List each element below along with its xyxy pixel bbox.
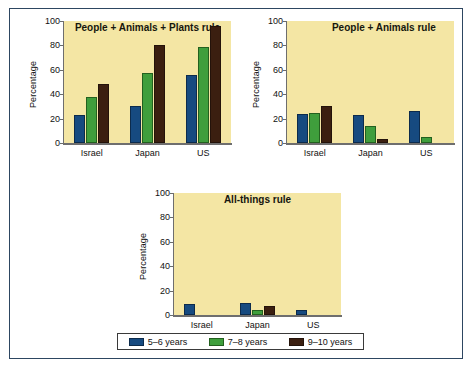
y-axis-tick-mark [283, 45, 286, 46]
x-axis-tick-label: Japan [358, 148, 383, 158]
legend-label-7-8-years: 7–8 years [228, 337, 268, 347]
bar [297, 114, 308, 143]
chart-title: All-things rule [224, 194, 291, 205]
y-axis-tick-label: 40 [273, 89, 283, 99]
x-axis-tick-label: US [420, 148, 433, 158]
y-axis-tick-mark [60, 21, 63, 22]
y-axis-tick-label: 80 [50, 40, 60, 50]
legend-entry: 9–10 years [289, 337, 353, 347]
bar [184, 304, 195, 315]
bar [154, 45, 165, 143]
figure-canvas: 020406080100PercentagePeople + Animals +… [0, 0, 473, 369]
bar [198, 47, 209, 143]
y-axis-tick-label: 60 [50, 65, 60, 75]
x-axis-tick-label: Israel [304, 148, 326, 158]
bar [98, 84, 109, 143]
bar [296, 310, 307, 315]
bar [130, 106, 141, 143]
y-axis-tick-label: 40 [160, 261, 170, 271]
y-axis-tick-mark [283, 143, 286, 144]
y-axis-tick-label: 40 [50, 89, 60, 99]
bar [309, 113, 320, 144]
y-axis-tick-mark [170, 266, 173, 267]
y-axis-tick-label: 60 [273, 65, 283, 75]
bar [377, 139, 388, 143]
bar [421, 137, 432, 143]
y-axis-tick-label: 20 [50, 114, 60, 124]
x-axis-tick-label: Japan [245, 320, 270, 330]
legend-label-5-6-years: 5–6 years [148, 337, 188, 347]
y-axis-tick-mark [283, 21, 286, 22]
y-axis-tick-mark [283, 119, 286, 120]
y-axis-tick-mark [170, 242, 173, 243]
plot-area [174, 193, 341, 315]
y-axis-title: Percentage [138, 233, 148, 280]
legend-entry: 7–8 years [209, 337, 268, 347]
x-axis-tick-label: US [307, 320, 320, 330]
chart-panel-people-animals-plants: 020406080100PercentagePeople + Animals +… [20, 18, 237, 165]
legend-entry: 5–6 years [129, 337, 188, 347]
bar [86, 97, 97, 143]
y-axis-tick-mark [283, 70, 286, 71]
bar [142, 73, 153, 143]
chart-panel-all-things: 020406080100PercentageAll-things ruleIsr… [130, 190, 347, 337]
y-axis-tick-label: 80 [160, 212, 170, 222]
x-axis-tick-label: Israel [81, 148, 103, 158]
y-axis-title: Percentage [251, 61, 261, 108]
y-axis-tick-mark [283, 94, 286, 95]
y-axis-tick-label: 100 [155, 188, 170, 198]
y-axis-tick-label: 60 [160, 237, 170, 247]
legend-swatch-5-6-years [129, 338, 144, 346]
chart-panel-people-animals: 020406080100PercentagePeople + Animals r… [243, 18, 460, 165]
y-axis-tick-mark [170, 217, 173, 218]
x-axis-line [63, 143, 232, 145]
x-axis-line [173, 315, 342, 317]
y-axis-title: Percentage [28, 61, 38, 108]
y-axis-tick-mark [170, 291, 173, 292]
x-axis-line [286, 143, 455, 145]
y-axis-tick-label: 100 [45, 16, 60, 26]
y-axis-tick-mark [60, 45, 63, 46]
bar [353, 115, 364, 143]
y-axis-tick-mark [60, 70, 63, 71]
y-axis-line [63, 21, 65, 145]
y-axis-tick-mark [170, 315, 173, 316]
bar [321, 106, 332, 143]
x-axis-tick-label: US [197, 148, 210, 158]
x-axis-tick-label: Japan [135, 148, 160, 158]
bar [252, 310, 263, 315]
bar [264, 306, 275, 315]
y-axis-tick-mark [60, 119, 63, 120]
y-axis-line [286, 21, 288, 145]
bar [240, 303, 251, 315]
chart-title: People + Animals + Plants rule [75, 22, 220, 33]
chart-legend: 5–6 years 7–8 years 9–10 years [117, 333, 364, 350]
y-axis-tick-label: 100 [268, 16, 283, 26]
y-axis-tick-mark [170, 193, 173, 194]
y-axis-tick-mark [60, 143, 63, 144]
legend-swatch-7-8-years [209, 338, 224, 346]
bar [409, 111, 420, 143]
y-axis-tick-mark [60, 94, 63, 95]
bar [186, 75, 197, 143]
y-axis-tick-label: 20 [273, 114, 283, 124]
x-axis-tick-label: Israel [191, 320, 213, 330]
y-axis-tick-label: 20 [160, 286, 170, 296]
bar [74, 115, 85, 143]
legend-label-9-10-years: 9–10 years [308, 337, 353, 347]
legend-swatch-9-10-years [289, 338, 304, 346]
chart-title: People + Animals rule [332, 22, 436, 33]
y-axis-tick-label: 80 [273, 40, 283, 50]
bar [210, 26, 221, 143]
y-axis-line [173, 193, 175, 317]
bar [365, 126, 376, 143]
